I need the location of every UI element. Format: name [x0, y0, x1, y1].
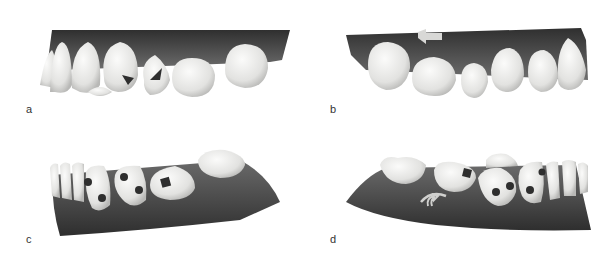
upper-arch-left-view	[306, 0, 613, 129]
panel-a: a	[0, 0, 306, 129]
panel-label-c: c	[26, 233, 32, 245]
panel-d: d	[306, 130, 613, 259]
upper-arch-right-view	[0, 0, 306, 129]
lower-arch-left-view	[306, 130, 613, 259]
lower-arch-right-view	[0, 130, 306, 259]
panel-label-b: b	[330, 103, 336, 115]
panel-label-a: a	[26, 103, 32, 115]
panel-c: c	[0, 130, 306, 259]
panel-label-d: d	[330, 233, 336, 245]
panel-b: b	[306, 0, 613, 129]
